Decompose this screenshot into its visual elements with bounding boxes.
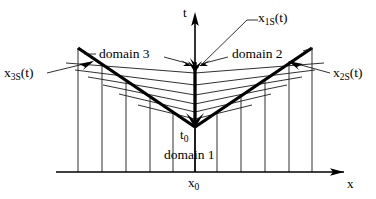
point-label-t0: t0 xyxy=(180,128,188,144)
curve-label-x3S: x3S(t) xyxy=(4,66,34,82)
arrowhead-x3S-icon xyxy=(79,61,94,70)
characteristics-diagram: t x x1S(t) x2S(t) x3S(t) domain 3 domain… xyxy=(0,0,376,199)
domain-label-2: domain 2 xyxy=(232,47,283,61)
domain-label-1: domain 1 xyxy=(164,148,215,162)
point-label-x0: x0 xyxy=(188,176,199,192)
curve-label-x2S: x2S(t) xyxy=(333,66,363,82)
domain-label-3: domain 3 xyxy=(99,47,150,61)
x-axis-label: x xyxy=(347,177,354,190)
diagram-canvas xyxy=(0,0,376,199)
curve-label-x1S: x1S(t) xyxy=(258,11,288,27)
t-axis-label: t xyxy=(183,6,187,19)
